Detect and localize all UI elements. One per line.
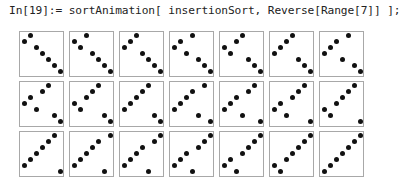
data-point xyxy=(222,45,227,50)
data-point xyxy=(302,63,307,68)
data-point xyxy=(158,133,163,138)
sort-frame xyxy=(69,31,114,77)
data-point xyxy=(246,57,251,62)
data-point xyxy=(284,113,289,118)
sort-frame xyxy=(269,131,314,177)
data-point xyxy=(22,163,27,168)
data-point xyxy=(208,119,213,124)
data-point xyxy=(96,57,101,62)
data-point xyxy=(146,169,151,174)
data-point xyxy=(102,113,107,118)
data-point xyxy=(40,145,45,150)
data-point xyxy=(52,133,57,138)
data-point xyxy=(52,113,57,118)
data-point xyxy=(172,45,177,50)
data-point xyxy=(190,33,195,38)
data-point xyxy=(284,157,289,162)
data-point xyxy=(202,139,207,144)
data-point xyxy=(352,83,357,88)
sort-frame xyxy=(219,131,264,177)
data-point xyxy=(284,39,289,44)
sort-frame xyxy=(119,81,164,127)
data-point xyxy=(184,51,189,56)
data-point xyxy=(334,39,339,44)
data-point xyxy=(102,63,107,68)
data-point xyxy=(184,95,189,100)
data-point xyxy=(340,151,345,156)
data-point xyxy=(308,133,313,138)
sort-frame xyxy=(269,81,314,127)
data-point xyxy=(28,33,33,38)
data-point xyxy=(58,119,63,124)
data-point xyxy=(172,163,177,168)
data-point xyxy=(246,89,251,94)
data-point xyxy=(346,145,351,150)
data-point xyxy=(28,157,33,162)
sort-frame xyxy=(119,31,164,77)
data-point xyxy=(352,139,357,144)
data-point xyxy=(172,107,177,112)
data-point xyxy=(146,57,151,62)
data-point xyxy=(196,145,201,150)
data-point xyxy=(134,151,139,156)
sort-frame xyxy=(319,31,364,77)
input-cell[interactable]: In[19]:= sortAnimation[ insertionSort, R… xyxy=(9,4,401,17)
data-point xyxy=(46,57,51,62)
data-point xyxy=(90,89,95,94)
data-point xyxy=(208,133,213,138)
data-point xyxy=(34,45,39,50)
data-point xyxy=(46,83,51,88)
data-point xyxy=(196,113,201,118)
data-point xyxy=(122,163,127,168)
sort-frame xyxy=(169,131,214,177)
data-point xyxy=(208,69,213,74)
data-point xyxy=(202,63,207,68)
sort-frame xyxy=(219,81,264,127)
data-point xyxy=(72,39,77,44)
data-point xyxy=(328,45,333,50)
data-point xyxy=(222,163,227,168)
data-point xyxy=(346,89,351,94)
sort-frame xyxy=(319,81,364,127)
data-point xyxy=(322,107,327,112)
data-point xyxy=(40,89,45,94)
data-point xyxy=(234,169,239,174)
data-point xyxy=(302,139,307,144)
data-point xyxy=(158,69,163,74)
input-code: sortAnimation[ insertionSort, Reverse[Ra… xyxy=(69,4,401,17)
data-point xyxy=(84,33,89,38)
data-point xyxy=(252,83,257,88)
data-point xyxy=(102,169,107,174)
data-point xyxy=(96,139,101,144)
data-point xyxy=(228,101,233,106)
data-point xyxy=(78,107,83,112)
data-point xyxy=(358,133,363,138)
data-point xyxy=(272,107,277,112)
data-point xyxy=(278,101,283,106)
sort-frame xyxy=(19,131,64,177)
data-point xyxy=(290,33,295,38)
sort-frame xyxy=(69,131,114,177)
data-point xyxy=(228,157,233,162)
data-point xyxy=(152,63,157,68)
data-point xyxy=(240,113,245,118)
data-point xyxy=(122,107,127,112)
data-point xyxy=(128,101,133,106)
sort-frame xyxy=(219,31,264,77)
data-point xyxy=(258,133,263,138)
data-point xyxy=(328,113,333,118)
data-point xyxy=(134,95,139,100)
data-point xyxy=(84,95,89,100)
data-point xyxy=(258,69,263,74)
data-point xyxy=(52,63,57,68)
data-point xyxy=(302,83,307,88)
data-point xyxy=(246,145,251,150)
sort-frame xyxy=(119,131,164,177)
data-point xyxy=(252,63,257,68)
data-point xyxy=(158,119,163,124)
data-point xyxy=(196,57,201,62)
sort-frame xyxy=(169,31,214,77)
data-point xyxy=(108,133,113,138)
sort-frame xyxy=(69,81,114,127)
data-point xyxy=(78,45,83,50)
